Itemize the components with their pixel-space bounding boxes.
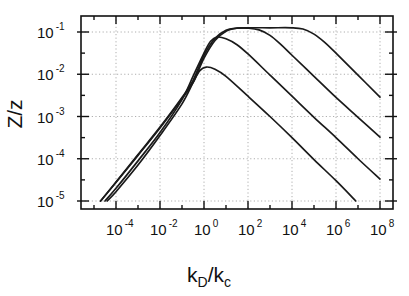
curve-3 <box>105 37 380 201</box>
log-log-chart: 10-410-2100102104106108 10-110-210-310-4… <box>0 0 409 296</box>
x-tick-label: 10-2 <box>150 218 178 238</box>
x-tick-label: 106 <box>326 218 351 238</box>
x-tick-labels: 10-410-2100102104106108 <box>106 218 395 238</box>
curve-1 <box>101 28 380 201</box>
data-curves <box>101 28 380 201</box>
x-tick-label: 10-4 <box>106 218 134 238</box>
x-tick-label: 104 <box>282 218 307 238</box>
y-tick-label: 10-3 <box>37 106 65 126</box>
y-tick-labels: 10-110-210-310-410-5 <box>37 21 65 210</box>
x-tick-label: 102 <box>238 218 263 238</box>
x-tick-label: 108 <box>370 218 395 238</box>
y-tick-label: 10-1 <box>37 21 65 41</box>
x-axis-title: kD/kc <box>187 263 231 290</box>
x-tick-label: 100 <box>194 218 219 238</box>
curve-4 <box>107 67 356 201</box>
y-tick-label: 10-4 <box>37 148 65 168</box>
y-tick-label: 10-2 <box>37 63 65 83</box>
y-tick-label: 10-5 <box>37 190 65 210</box>
y-axis-title: Z/z <box>3 99 26 128</box>
curve-2 <box>101 28 380 201</box>
